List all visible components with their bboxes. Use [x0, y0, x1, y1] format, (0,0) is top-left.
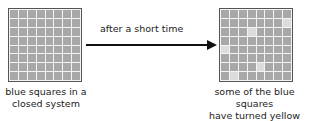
- blue-square: [72, 46, 80, 54]
- blue-square: [63, 54, 71, 62]
- yellow-square: [283, 19, 291, 27]
- blue-square: [257, 54, 265, 62]
- blue-square: [239, 28, 247, 36]
- blue-square: [46, 54, 54, 62]
- blue-square: [265, 37, 273, 45]
- blue-square: [230, 28, 238, 36]
- blue-square: [10, 72, 18, 80]
- blue-square: [239, 19, 247, 27]
- blue-square: [274, 28, 282, 36]
- right-caption-line2: have turned yellow: [196, 110, 313, 121]
- blue-square: [274, 19, 282, 27]
- blue-square: [54, 72, 62, 80]
- yellow-square: [221, 46, 229, 54]
- blue-square: [239, 10, 247, 18]
- blue-square: [72, 10, 80, 18]
- blue-square: [221, 10, 229, 18]
- blue-square: [221, 28, 229, 36]
- blue-square: [248, 63, 256, 71]
- blue-square: [283, 10, 291, 18]
- blue-square: [265, 72, 273, 80]
- blue-square: [37, 37, 45, 45]
- blue-square: [28, 28, 36, 36]
- blue-square: [274, 72, 282, 80]
- blue-square: [19, 10, 27, 18]
- blue-square: [19, 72, 27, 80]
- blue-square: [257, 19, 265, 27]
- blue-square: [28, 54, 36, 62]
- blue-square: [274, 37, 282, 45]
- yellow-square: [230, 72, 238, 80]
- blue-square: [257, 10, 265, 18]
- blue-square: [230, 10, 238, 18]
- blue-square: [265, 46, 273, 54]
- blue-square: [46, 28, 54, 36]
- blue-square: [37, 10, 45, 18]
- blue-square: [230, 46, 238, 54]
- left-caption: blue squares in a closed system: [0, 86, 92, 110]
- blue-square: [221, 37, 229, 45]
- blue-square: [248, 19, 256, 27]
- blue-square: [265, 19, 273, 27]
- blue-square: [283, 37, 291, 45]
- blue-square: [63, 10, 71, 18]
- yellow-square: [257, 63, 265, 71]
- arrow-right-icon: [207, 40, 217, 50]
- blue-square: [72, 37, 80, 45]
- blue-square: [54, 54, 62, 62]
- blue-square: [10, 37, 18, 45]
- blue-square: [257, 37, 265, 45]
- blue-square: [46, 63, 54, 71]
- blue-square: [221, 19, 229, 27]
- blue-square: [230, 19, 238, 27]
- blue-square: [265, 28, 273, 36]
- blue-square: [54, 63, 62, 71]
- blue-square: [72, 28, 80, 36]
- blue-square: [46, 46, 54, 54]
- blue-square: [257, 28, 265, 36]
- blue-square: [72, 54, 80, 62]
- blue-square: [37, 72, 45, 80]
- blue-square: [72, 63, 80, 71]
- blue-square: [239, 54, 247, 62]
- blue-square: [274, 63, 282, 71]
- blue-square: [19, 37, 27, 45]
- blue-square: [28, 63, 36, 71]
- blue-square: [257, 46, 265, 54]
- blue-square: [239, 63, 247, 71]
- blue-square: [54, 19, 62, 27]
- blue-square: [46, 10, 54, 18]
- blue-square: [54, 28, 62, 36]
- blue-square: [19, 28, 27, 36]
- blue-square: [63, 63, 71, 71]
- blue-square: [248, 37, 256, 45]
- blue-square: [265, 10, 273, 18]
- blue-square: [283, 63, 291, 71]
- right-caption-line1: some of the blue squares: [196, 86, 313, 110]
- blue-square: [265, 63, 273, 71]
- blue-square: [221, 63, 229, 71]
- blue-square: [10, 54, 18, 62]
- blue-square: [239, 46, 247, 54]
- blue-square: [248, 54, 256, 62]
- blue-square: [248, 46, 256, 54]
- blue-square: [10, 10, 18, 18]
- blue-square: [283, 46, 291, 54]
- blue-square: [37, 28, 45, 36]
- blue-square: [283, 54, 291, 62]
- closed-system-grid-after: [219, 8, 293, 82]
- arrow-label: after a short time: [100, 23, 183, 34]
- left-caption-line2: closed system: [0, 98, 92, 110]
- blue-square: [248, 72, 256, 80]
- blue-square: [19, 19, 27, 27]
- blue-square: [72, 72, 80, 80]
- blue-square: [72, 19, 80, 27]
- blue-square: [239, 72, 247, 80]
- blue-square: [274, 54, 282, 62]
- blue-square: [10, 46, 18, 54]
- blue-square: [54, 37, 62, 45]
- left-caption-line1: blue squares in a: [0, 86, 92, 98]
- yellow-square: [248, 28, 256, 36]
- blue-square: [221, 54, 229, 62]
- blue-square: [46, 37, 54, 45]
